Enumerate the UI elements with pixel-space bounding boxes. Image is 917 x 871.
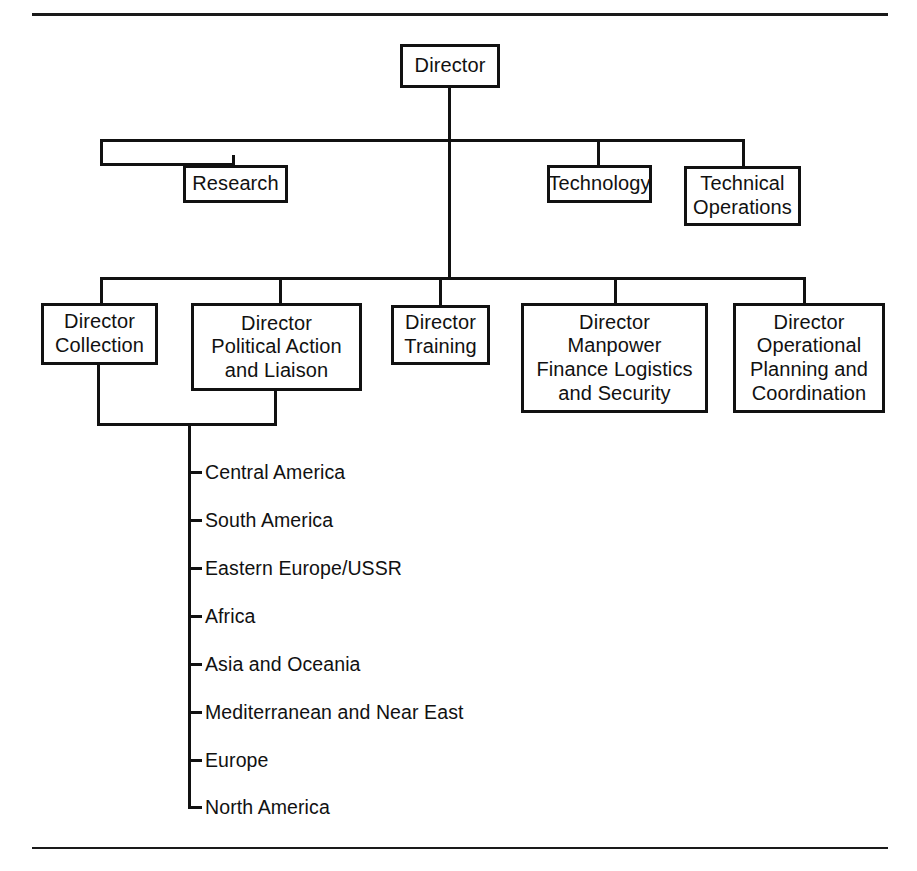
connector-drop-director-operational-planning — [803, 277, 806, 305]
node-director-political-action[interactable]: Director Political Action and Liaison — [191, 303, 362, 391]
region-label: Africa — [205, 605, 255, 628]
region-label: Mediterranean and Near East — [205, 701, 464, 724]
node-director-political-action-line2: Political Action — [211, 335, 342, 359]
node-director-operational-planning-line4: Coordination — [752, 382, 867, 406]
node-director-political-action-line1: Director — [241, 312, 312, 336]
region-tick — [188, 471, 202, 474]
node-director-training-line1: Director — [405, 311, 476, 335]
node-director-label: Director — [415, 54, 486, 78]
node-director-manpower-line3: Finance Logistics — [536, 358, 692, 382]
node-director[interactable]: Director — [400, 44, 500, 88]
connector-drop-director-collection — [100, 277, 103, 305]
node-director-operational-planning-line1: Director — [774, 311, 845, 335]
region-tick — [188, 759, 202, 762]
connector-drop-technical-operations — [742, 139, 745, 167]
node-director-manpower-line2: Manpower — [567, 334, 661, 358]
node-director-operational-planning-line2: Operational — [757, 334, 862, 358]
node-director-manpower[interactable]: Director Manpower Finance Logistics and … — [521, 303, 708, 413]
node-director-training-line2: Training — [404, 335, 476, 359]
node-director-manpower-line1: Director — [579, 311, 650, 335]
bottom-rule — [32, 847, 888, 849]
region-tick — [188, 711, 202, 714]
connector-director-stem — [448, 88, 451, 141]
connector-level2-bus — [100, 277, 806, 280]
connector-drop-director-training — [439, 277, 442, 305]
connector-center-trunk — [448, 139, 451, 279]
connector-drop-technology — [597, 139, 600, 166]
connector-collection-to-merge — [97, 365, 100, 426]
node-technical-operations-line2: Operations — [693, 196, 792, 220]
node-technical-operations[interactable]: Technical Operations — [684, 166, 801, 226]
region-label: Europe — [205, 749, 268, 772]
connector-political-action-to-merge — [274, 391, 277, 426]
node-director-collection-line2: Collection — [55, 334, 144, 358]
org-chart-page: Director Research Technology Technical O… — [0, 0, 917, 871]
region-tick — [188, 615, 202, 618]
region-label: Asia and Oceania — [205, 653, 361, 676]
region-label: South America — [205, 509, 333, 532]
region-label: Central America — [205, 461, 345, 484]
top-rule — [32, 13, 888, 16]
region-tick — [188, 663, 202, 666]
node-director-operational-planning[interactable]: Director Operational Planning and Coordi… — [733, 303, 885, 413]
node-technology-label: Technology — [548, 172, 650, 196]
node-research-label: Research — [192, 172, 278, 196]
node-director-operational-planning-line3: Planning and — [750, 358, 868, 382]
connector-level1-bus — [100, 139, 745, 142]
node-director-training[interactable]: Director Training — [391, 305, 490, 365]
node-director-collection[interactable]: Director Collection — [41, 303, 158, 365]
region-label: North America — [205, 796, 330, 819]
node-technical-operations-line1: Technical — [700, 172, 784, 196]
connector-merge-bar — [97, 423, 277, 426]
node-director-political-action-line3: and Liaison — [225, 359, 328, 383]
region-tick — [188, 806, 202, 809]
connector-drop-director-manpower — [614, 277, 617, 305]
node-research[interactable]: Research — [183, 165, 288, 203]
connector-drop-director-political-action — [279, 277, 282, 305]
node-technology[interactable]: Technology — [547, 165, 652, 203]
node-director-manpower-line4: and Security — [558, 382, 670, 406]
node-director-collection-line1: Director — [64, 310, 135, 334]
region-tick — [188, 567, 202, 570]
connector-drop-research — [100, 139, 103, 166]
region-label: Eastern Europe/USSR — [205, 557, 402, 580]
region-tick — [188, 519, 202, 522]
